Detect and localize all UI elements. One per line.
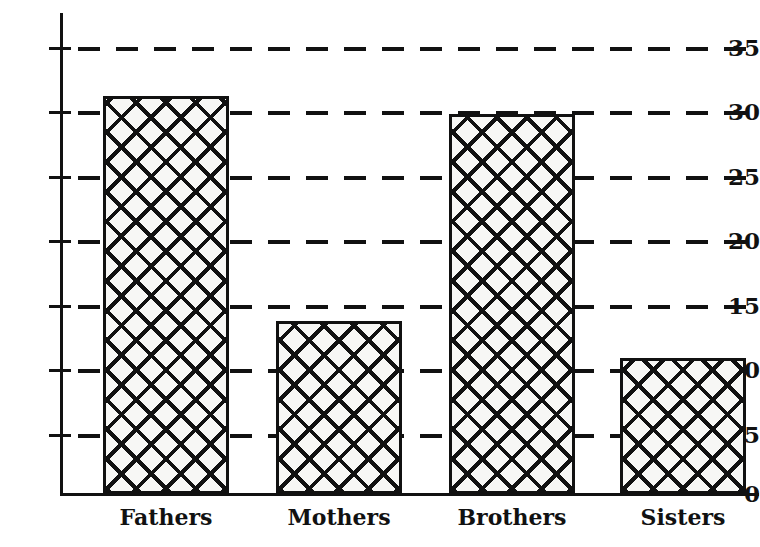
gridline-35 <box>78 47 756 51</box>
category-label-brothers: Brothers <box>449 505 575 529</box>
y-tick-25 <box>49 176 71 179</box>
y-tick-10 <box>49 369 71 372</box>
y-tick-5 <box>49 434 71 437</box>
bar-fathers <box>103 96 229 494</box>
bar-mothers <box>276 321 402 494</box>
y-tick-35 <box>49 47 71 50</box>
category-label-sisters: Sisters <box>620 505 746 529</box>
y-tick-30 <box>49 111 71 114</box>
bar-chart: 35 30 25 20 15 10 5 0 Fathers Mothers Br… <box>0 0 760 547</box>
bar-brothers <box>449 114 575 494</box>
category-label-mothers: Mothers <box>276 505 402 529</box>
plot-area: 35 30 25 20 15 10 5 0 Fathers Mothers Br… <box>0 0 760 547</box>
category-label-fathers: Fathers <box>103 505 229 529</box>
y-tick-20 <box>49 240 71 243</box>
bar-sisters <box>620 358 746 494</box>
y-axis-line <box>60 13 63 496</box>
y-tick-15 <box>49 305 71 308</box>
